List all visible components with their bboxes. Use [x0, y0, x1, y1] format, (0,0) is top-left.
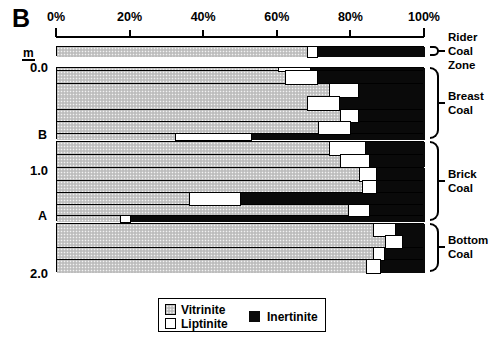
coal-group-block — [56, 46, 424, 56]
sample-bar — [57, 84, 423, 97]
x-tick-label: 100% — [408, 10, 440, 24]
group-bracket-nub — [438, 50, 445, 52]
maceral-segment-vit — [57, 134, 175, 140]
maceral-segment-lip — [362, 180, 377, 194]
legend-swatch-vit — [165, 304, 176, 315]
maceral-segment-vit — [57, 97, 307, 109]
legend-swatch-lip — [165, 318, 176, 329]
x-tick-label: 40% — [191, 10, 216, 24]
maceral-segment-ine — [377, 168, 425, 181]
x-tick-label: 80% — [338, 10, 363, 24]
sample-bar — [57, 224, 423, 236]
maceral-segment-lip — [120, 215, 131, 223]
maceral-segment-vit — [57, 47, 307, 57]
group-bracket-nub — [438, 246, 445, 248]
depth-tick-label: 0.0 — [10, 59, 48, 74]
maceral-segment-ine — [359, 110, 425, 122]
maceral-segment-ine — [318, 47, 425, 57]
group-label: Rider Coal Zone — [448, 30, 477, 72]
group-bracket-nub — [438, 180, 445, 182]
maceral-segment-vit — [57, 248, 373, 260]
maceral-segment-ine — [359, 84, 425, 97]
group-bracket-nub — [438, 102, 445, 104]
sample-bar — [57, 134, 423, 140]
maceral-segment-lip — [307, 46, 318, 58]
maceral-segment-vit — [57, 110, 340, 122]
maceral-segment-ine — [385, 248, 425, 260]
maceral-segment-ine — [366, 142, 425, 155]
x-tick-label: 20% — [117, 10, 142, 24]
group-label: Brick Coal — [448, 167, 477, 195]
maceral-segment-lip — [189, 192, 241, 205]
coal-group-block — [56, 141, 424, 221]
depth-tick-label: 1.0 — [10, 162, 48, 177]
chart-figure: B 0%20%40%60%80%100% VitriniteLiptiniteI… — [0, 0, 498, 350]
maceral-segment-lip — [285, 70, 318, 85]
maceral-segment-vit — [57, 155, 340, 167]
x-tick-label: 60% — [264, 10, 289, 24]
sample-bar — [57, 260, 423, 272]
sample-bar — [57, 97, 423, 109]
maceral-segment-lip — [307, 96, 340, 110]
maceral-segment-lip — [366, 259, 381, 273]
maceral-segment-vit — [57, 71, 285, 84]
sample-bar — [57, 168, 423, 181]
maceral-segment-lip — [348, 204, 370, 217]
coal-group-block — [56, 67, 424, 139]
maceral-segment-ine — [131, 216, 425, 222]
legend-label-lip: Liptinite — [181, 317, 228, 331]
legend-label-vit: Vitrinite — [181, 303, 225, 317]
x-tick-label: 0% — [47, 10, 65, 24]
depth-marker-label: A — [38, 209, 47, 223]
maceral-segment-vit — [57, 142, 329, 155]
maceral-segment-ine — [370, 155, 425, 167]
depth-tick-label: 2.0 — [10, 265, 48, 280]
x-tick-mark — [55, 28, 57, 37]
sample-bar — [57, 47, 423, 57]
x-tick-mark — [276, 30, 278, 37]
group-label: Breast Coal — [448, 89, 484, 117]
maceral-segment-lip — [385, 235, 403, 248]
maceral-segment-vit — [57, 260, 366, 272]
x-axis: 0%20%40%60%80%100% — [0, 0, 498, 44]
x-tick-mark — [423, 28, 425, 37]
x-axis-line — [56, 36, 424, 38]
legend-label-ine: Inertinite — [267, 310, 318, 324]
sample-bar — [57, 71, 423, 84]
chart-legend: VitriniteLiptiniteInertinite — [158, 298, 326, 332]
maceral-segment-ine — [377, 181, 425, 193]
sample-bar — [57, 110, 423, 122]
plot-area — [56, 44, 424, 288]
coal-group-block — [56, 223, 424, 271]
maceral-segment-vit — [57, 84, 329, 97]
maceral-segment-vit — [57, 168, 359, 181]
x-tick-mark — [202, 30, 204, 37]
depth-marker-label: B — [38, 128, 47, 142]
x-tick-mark — [129, 30, 131, 37]
maceral-segment-vit — [57, 216, 120, 222]
maceral-segment-lip — [175, 133, 252, 141]
group-label: Bottom Coal — [448, 233, 488, 261]
maceral-segment-ine — [381, 260, 425, 272]
sample-bar — [57, 142, 423, 155]
legend-swatch-ine — [249, 311, 260, 322]
x-tick-mark — [349, 30, 351, 37]
maceral-segment-vit — [57, 224, 373, 236]
maceral-segment-lip — [318, 121, 351, 134]
